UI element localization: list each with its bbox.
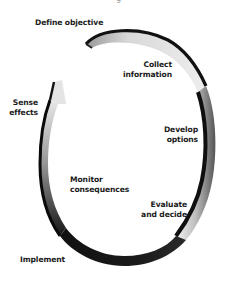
step-label-line: Define objective xyxy=(35,18,103,28)
step-label-line: effects xyxy=(9,108,38,118)
cropped-caption-fragment: g xyxy=(116,0,121,3)
step-label-line: Monitor xyxy=(70,175,129,185)
cycle-diagram: g Define objective Collect information D… xyxy=(0,0,232,281)
step-label-line: Develop xyxy=(164,125,198,135)
step-label-line: consequences xyxy=(70,185,129,195)
step-sense-effects: Sense effects xyxy=(9,98,38,117)
step-label-line: options xyxy=(164,135,198,145)
step-evaluate-and-decide: Evaluate and decide xyxy=(141,200,187,219)
ribbon-bottom-segment xyxy=(60,228,186,266)
step-label-line: Sense xyxy=(9,98,38,108)
step-label-line: Evaluate xyxy=(141,200,187,210)
step-label-line: Implement xyxy=(20,255,65,265)
step-collect-information: Collect information xyxy=(123,60,172,79)
step-monitor-consequences: Monitor consequences xyxy=(70,175,129,194)
step-label-line: and decide xyxy=(141,210,187,220)
step-label-line: information xyxy=(123,70,172,80)
step-implement: Implement xyxy=(20,255,65,265)
step-label-line: Collect xyxy=(123,60,172,70)
step-develop-options: Develop options xyxy=(164,125,198,144)
step-define-objective: Define objective xyxy=(35,18,103,28)
